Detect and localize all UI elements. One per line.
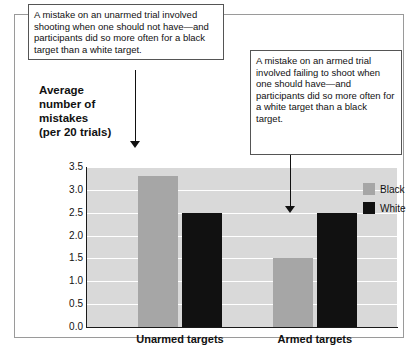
legend-label: Black	[380, 184, 404, 195]
y-axis-title-line-2: number of	[39, 97, 149, 111]
legend: BlackWhite	[363, 183, 406, 221]
y-tick-label: 3.5	[49, 162, 83, 172]
bar-black-unarmed	[138, 176, 178, 327]
annotation-unarmed: A mistake on an unarmed trial involved s…	[28, 4, 224, 60]
y-axis-title-line-4: (per 20 trials)	[39, 125, 149, 139]
annotation-armed-arrow-head	[285, 206, 295, 213]
y-axis-line	[86, 167, 87, 328]
bar-black-armed	[273, 258, 313, 327]
y-tick-label: 1.5	[49, 253, 83, 263]
y-axis-title-line-3: mistakes	[39, 111, 149, 125]
annotation-armed-arrow-line	[290, 155, 291, 207]
annotation-armed: A mistake on an armed trial involved fai…	[250, 50, 402, 155]
legend-item: White	[363, 202, 406, 214]
chart-root: Average number of mistakes (per 20 trial…	[0, 0, 418, 352]
annotation-unarmed-arrow-line	[135, 70, 136, 142]
x-axis-label: Unarmed targets	[120, 333, 240, 345]
y-tick-label: 0.0	[49, 322, 83, 332]
plot-area	[87, 167, 397, 327]
x-axis-line	[86, 327, 398, 328]
y-tick-label: 0.5	[49, 299, 83, 309]
y-tick-label: 2.0	[49, 231, 83, 241]
x-axis-label: Armed targets	[255, 333, 375, 345]
gridline	[87, 167, 397, 168]
y-tick-label: 2.5	[49, 208, 83, 218]
legend-swatch	[363, 183, 375, 195]
y-axis-title: Average number of mistakes (per 20 trial…	[39, 83, 149, 139]
legend-label: White	[380, 203, 406, 214]
bar-white-unarmed	[182, 213, 222, 327]
y-tick-label: 3.0	[49, 185, 83, 195]
bar-white-armed	[317, 213, 357, 327]
y-tick-label: 1.0	[49, 276, 83, 286]
legend-swatch	[363, 202, 375, 214]
y-axis-ticks: 3.53.02.52.01.51.00.50.0	[45, 167, 83, 327]
y-axis-title-line-1: Average	[39, 83, 149, 97]
annotation-unarmed-arrow-head	[130, 141, 140, 148]
legend-item: Black	[363, 183, 406, 195]
gridline	[87, 190, 397, 191]
